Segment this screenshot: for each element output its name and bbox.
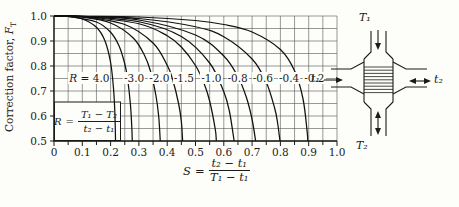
right-nozzle-upper-wall [393,62,427,69]
bottom-nozzle-left-wall [364,102,371,136]
left-nozzle-lower-wall [331,87,364,94]
tube-outlet-label: t₂ [434,74,443,86]
top-nozzle-right-wall [386,31,393,59]
tube-inlet-label: t₁ [311,73,320,85]
tube-inlet-arrow-icon [324,77,343,83]
shell-inlet-arrow-icon [375,30,381,50]
bottom-nozzle-right-wall [386,102,393,136]
shell-outlet-label: T₂ [356,140,368,152]
shell-inlet-label: T₁ [359,12,371,24]
heat-exchanger-diagram [0,0,459,207]
lmtd-correction-factor-figure: 00.10.20.30.40.50.60.70.80.91.01.00.90.8… [0,0,459,207]
left-nozzle-upper-wall [331,62,364,69]
tube-bundle-hatch [364,67,393,93]
tube-outlet-double-arrow-icon [409,78,431,84]
shell-outlet-double-arrow-icon [375,111,381,135]
top-nozzle-left-wall [364,31,371,59]
right-nozzle-lower-wall [393,87,427,94]
